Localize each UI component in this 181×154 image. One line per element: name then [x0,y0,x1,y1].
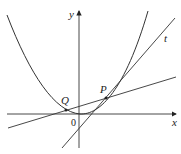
x-axis-label: x [171,116,177,128]
tangent-label: t [164,32,168,44]
diagram-canvas: y x 0 P Q t [0,0,181,154]
y-axis-label: y [68,8,74,20]
parabola-curve [7,11,148,114]
secant-line-qp [8,77,176,128]
point-q-label: Q [61,94,69,106]
point-q [65,109,68,112]
origin-label: 0 [71,117,76,128]
point-p-label: P [99,83,107,95]
parabola-tangent-diagram: y x 0 P Q t [0,0,181,154]
point-p [105,97,108,100]
